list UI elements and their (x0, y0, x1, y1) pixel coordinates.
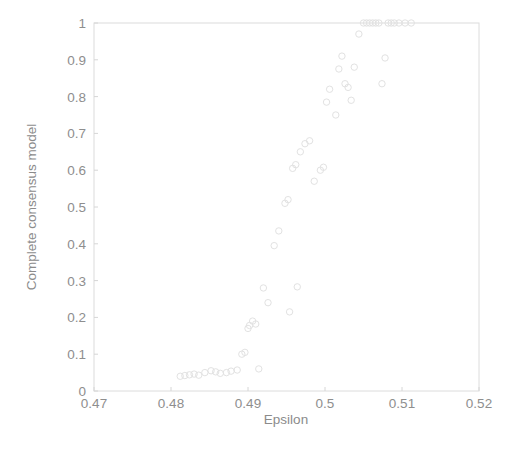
data-point-marker (348, 97, 354, 103)
y-tick-label: 0.8 (67, 90, 86, 105)
data-point-marker (294, 284, 300, 290)
data-point-marker (356, 31, 362, 37)
data-point-marker (256, 366, 262, 372)
y-tick-label: 1 (78, 16, 86, 31)
data-point-marker (339, 53, 345, 59)
plot-frame (94, 23, 479, 391)
x-tick-label: 0.48 (158, 396, 184, 411)
x-tick-label: 0.51 (389, 396, 415, 411)
y-axis-ticks (94, 23, 98, 391)
data-point-marker (276, 228, 282, 234)
data-point-marker (265, 299, 271, 305)
data-point-marker (196, 372, 202, 378)
data-point-marker (382, 55, 388, 61)
scatter-plot-figure: 0.470.480.490.50.510.52 00.10.20.30.40.5… (0, 0, 526, 452)
data-point-marker (379, 81, 385, 87)
plot-canvas: 0.470.480.490.50.510.52 00.10.20.30.40.5… (0, 0, 526, 452)
x-tick-label: 0.49 (235, 396, 261, 411)
data-point-marker (333, 112, 339, 118)
data-point-marker (302, 141, 308, 147)
x-axis-ticks (94, 387, 479, 391)
x-axis-tick-labels: 0.470.480.490.50.510.52 (81, 396, 492, 411)
y-tick-label: 0.1 (67, 347, 86, 362)
y-tick-label: 0.5 (67, 200, 86, 215)
data-point-marker (234, 367, 240, 373)
data-point-marker (297, 149, 303, 155)
y-axis-title: Complete consensus model (24, 124, 39, 291)
data-point-marker (323, 99, 329, 105)
y-tick-label: 0.4 (67, 237, 86, 252)
y-tick-label: 0.9 (67, 53, 86, 68)
y-tick-label: 0.2 (67, 310, 86, 325)
data-point-marker (208, 368, 214, 374)
y-tick-label: 0.6 (67, 163, 86, 178)
y-axis-tick-labels: 00.10.20.30.40.50.60.70.80.91 (67, 16, 86, 399)
x-tick-label: 0.52 (466, 396, 492, 411)
scatter-data-points (177, 20, 414, 380)
data-point-marker (351, 64, 357, 70)
data-point-marker (260, 285, 266, 291)
data-point-marker (326, 86, 332, 92)
y-tick-label: 0.3 (67, 274, 86, 289)
x-tick-label: 0.5 (316, 396, 335, 411)
y-tick-label: 0 (78, 384, 86, 399)
y-tick-label: 0.7 (67, 126, 86, 141)
data-point-marker (306, 138, 312, 144)
data-point-marker (286, 309, 292, 315)
data-point-marker (336, 66, 342, 72)
data-point-marker (271, 242, 277, 248)
data-point-marker (191, 371, 197, 377)
data-point-marker (202, 369, 208, 375)
x-axis-title: Epsilon (264, 412, 308, 427)
data-point-marker (311, 178, 317, 184)
